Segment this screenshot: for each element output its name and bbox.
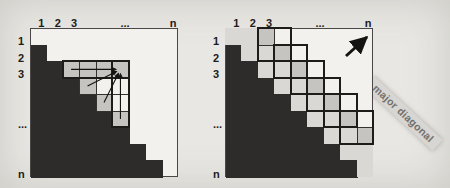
unused-cells-row [31, 61, 64, 78]
unused-cells-row [31, 45, 47, 62]
matrix-cell-computed [357, 144, 373, 161]
matrix-cell-computed [357, 160, 373, 177]
unused-cells-row [31, 144, 146, 161]
unused-cells-row [31, 78, 80, 95]
unused-cells-row [226, 127, 325, 144]
unused-cells-row [226, 94, 292, 111]
dependency-box [339, 110, 374, 145]
unused-cells-row [226, 61, 259, 78]
matrix-cell-computed [225, 28, 241, 45]
unused-cells-row [226, 78, 275, 95]
unused-cells-row [226, 160, 358, 177]
unused-cells-row [31, 160, 163, 177]
matrix-cell-computed [291, 94, 307, 111]
unused-cells-row [31, 111, 113, 128]
matrix-cell-computed [340, 144, 356, 161]
matrix-cell-computed [324, 127, 340, 144]
matrix-cell-outline [79, 78, 96, 96]
unused-cells-row [31, 94, 97, 111]
matrix-cell-computed [258, 61, 274, 78]
figure-canvas: unused unused major diagonal 123...n123.… [0, 0, 450, 188]
matrix-cell-computed [307, 111, 323, 128]
unused-cells-row [226, 111, 308, 128]
matrix-cell-computed [274, 78, 290, 95]
matrix-cell-computed [241, 45, 257, 62]
dependency-box [111, 60, 129, 128]
unused-cells-row [226, 144, 341, 161]
matrix-cell-computed [241, 28, 257, 45]
unused-cells-row [31, 127, 130, 144]
unused-cells-row [226, 45, 242, 62]
major-diagonal-label: major diagonal [364, 76, 443, 151]
